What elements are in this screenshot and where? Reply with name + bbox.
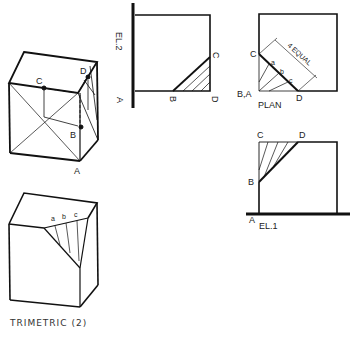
- el1-label-c: C: [257, 130, 264, 140]
- plan-label-b-small: b: [280, 68, 284, 75]
- el2-title: EL.2: [114, 32, 124, 51]
- plan-label-ba: B,A: [237, 89, 252, 99]
- el2-label-d: D: [210, 96, 220, 103]
- el2-label-b: B: [168, 96, 178, 102]
- plan-label-a-small: a: [271, 59, 275, 66]
- label-b: B: [70, 130, 76, 140]
- el2-label-a: A: [115, 97, 125, 103]
- trimetric2-label-a: a: [51, 215, 55, 222]
- el1-label-b: B: [248, 177, 254, 187]
- el1-label-a: A: [249, 215, 255, 225]
- plan-label-d: D: [296, 93, 303, 103]
- plan-dimension: 4 EQUAL: [286, 42, 313, 68]
- plan-title: PLAN: [258, 100, 282, 110]
- trimetric2-label-b: b: [62, 213, 66, 220]
- label-c: C: [36, 76, 43, 86]
- label-a: A: [74, 166, 80, 176]
- el1-label-d: D: [299, 130, 306, 140]
- elevation-2-view: [133, 3, 210, 108]
- caption: TRIMETRIC (2): [9, 318, 87, 328]
- elevation-1-view: [246, 142, 350, 214]
- drawing-canvas: C D B A EL.2 A B C D C B,A D a b c 4 EQU…: [0, 0, 352, 337]
- el2-label-c: C: [211, 52, 221, 59]
- el1-title: EL.1: [259, 221, 278, 231]
- plan-label-c: C: [250, 49, 257, 59]
- plan-label-c-small: c: [289, 77, 293, 84]
- trimetric2-label-c: c: [74, 211, 78, 218]
- label-d: D: [80, 66, 87, 76]
- trimetric-cube-2: [9, 193, 98, 307]
